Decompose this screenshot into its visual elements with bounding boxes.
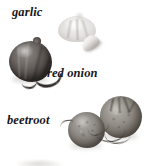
cropped-specimen-bleed bbox=[16, 160, 62, 166]
produce-figure: garlic red onion beetroot bbox=[0, 0, 146, 166]
label-garlic: garlic bbox=[12, 6, 42, 19]
label-red-onion: red onion bbox=[47, 67, 98, 80]
beetroot-root-strand bbox=[104, 133, 131, 146]
label-beetroot: beetroot bbox=[7, 114, 49, 127]
red-onion-root-tail-tip bbox=[21, 79, 37, 90]
small-beetroot-root bbox=[60, 120, 73, 128]
